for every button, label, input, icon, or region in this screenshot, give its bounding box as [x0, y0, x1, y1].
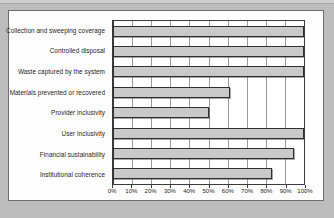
- bar-rows: [113, 21, 304, 184]
- bar-row: [113, 164, 304, 184]
- x-axis: 0%10%20%30%40%50%60%70%80%90%100%: [112, 185, 305, 199]
- category-axis-labels: Collection and sweeping coverageControll…: [9, 20, 109, 185]
- bar-row: [113, 62, 304, 82]
- bar-row: [113, 143, 304, 163]
- category-label: Materials prevented or recovered: [9, 82, 109, 103]
- bar-row: [113, 82, 304, 102]
- x-tick-label: 10%: [125, 188, 137, 194]
- bar: [113, 107, 209, 118]
- x-tick-label: 50%: [202, 188, 214, 194]
- page-top-rule: [0, 0, 334, 4]
- bar-row: [113, 41, 304, 61]
- x-tick-label: 90%: [280, 188, 292, 194]
- x-tick-label: 0%: [108, 188, 117, 194]
- gridline: [304, 21, 305, 184]
- chart-card: Collection and sweeping coverageControll…: [8, 10, 324, 201]
- bar: [113, 87, 230, 98]
- bar-chart: Collection and sweeping coverageControll…: [9, 11, 323, 200]
- bar: [113, 66, 304, 77]
- page-background: Collection and sweeping coverageControll…: [0, 0, 334, 218]
- bar: [113, 168, 272, 179]
- x-tick-label: 30%: [164, 188, 176, 194]
- bar-row: [113, 21, 304, 41]
- category-label: Financial sustainability: [9, 144, 109, 165]
- category-label: Institutional coherence: [9, 164, 109, 185]
- x-tick-label: 20%: [145, 188, 157, 194]
- x-tick-label: 100%: [297, 188, 312, 194]
- category-label: Controlled disposal: [9, 41, 109, 62]
- x-tick-label: 70%: [241, 188, 253, 194]
- category-label: Provider inclusivity: [9, 103, 109, 124]
- bar: [113, 46, 304, 57]
- x-tick-label: 60%: [222, 188, 234, 194]
- bar: [113, 148, 294, 159]
- bar: [113, 26, 304, 37]
- bar: [113, 128, 304, 139]
- x-tick-label: 40%: [183, 188, 195, 194]
- bar-row: [113, 103, 304, 123]
- bar-row: [113, 123, 304, 143]
- category-label: Waste captured by the system: [9, 61, 109, 82]
- x-tick-label: 80%: [260, 188, 272, 194]
- category-label: Collection and sweeping coverage: [9, 20, 109, 41]
- plot-area: [112, 20, 305, 185]
- category-label: User inclusivity: [9, 123, 109, 144]
